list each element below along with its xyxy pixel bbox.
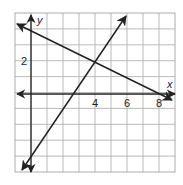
line-increasing — [22, 16, 126, 170]
x-axis-label: x — [166, 78, 173, 90]
x-tick-8: 8 — [156, 97, 162, 109]
y-axis-label: y — [36, 14, 44, 26]
x-tick-4: 4 — [92, 97, 98, 109]
y-tick-2: 2 — [21, 55, 27, 67]
coordinate-plane: y x 4 6 8 2 — [0, 0, 183, 185]
x-tick-6: 6 — [124, 97, 130, 109]
grid — [15, 13, 175, 172]
